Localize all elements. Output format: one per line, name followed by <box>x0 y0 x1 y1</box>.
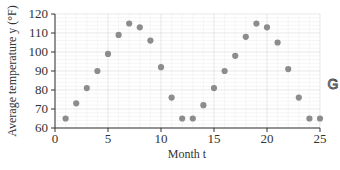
data-point <box>232 53 238 59</box>
data-point <box>243 34 249 40</box>
data-point <box>306 115 312 121</box>
data-point <box>158 64 164 70</box>
x-tick-label: 20 <box>261 131 274 146</box>
y-axis-title: Average temperature y (°F) <box>5 5 19 137</box>
scatter-chart: 60708090100110120 0510152025 Month t Ave… <box>0 0 340 170</box>
y-tick-label: 60 <box>35 120 48 135</box>
svg-text:G: G <box>328 76 339 92</box>
data-point <box>264 24 270 30</box>
graphing-calculator-icon: G <box>325 76 340 92</box>
data-point <box>179 115 185 121</box>
data-point <box>169 95 175 101</box>
x-axis-title: Month t <box>168 147 207 161</box>
data-point <box>222 68 228 74</box>
data-point <box>200 102 206 108</box>
y-tick-label: 120 <box>29 6 49 21</box>
y-tick-label: 70 <box>35 101 48 116</box>
data-point <box>63 115 69 121</box>
data-point <box>84 85 90 91</box>
data-point <box>296 95 302 101</box>
y-tick-label: 110 <box>29 25 48 40</box>
data-point <box>126 20 132 26</box>
data-point <box>211 85 217 91</box>
x-axis-ticks: 0510152025 <box>52 128 327 146</box>
data-point <box>116 32 122 38</box>
x-tick-label: 15 <box>208 131 221 146</box>
x-tick-label: 10 <box>155 131 168 146</box>
data-point <box>190 115 196 121</box>
x-tick-label: 0 <box>52 131 59 146</box>
data-point <box>317 115 323 121</box>
data-point <box>253 20 259 26</box>
data-point <box>275 39 281 45</box>
y-tick-label: 80 <box>35 82 48 97</box>
y-axis-ticks: 60708090100110120 <box>29 6 56 135</box>
data-point <box>73 100 79 106</box>
x-tick-label: 5 <box>105 131 112 146</box>
data-point <box>285 66 291 72</box>
data-point <box>94 68 100 74</box>
x-tick-label: 25 <box>314 131 327 146</box>
data-point <box>137 24 143 30</box>
data-point <box>105 51 111 57</box>
y-tick-label: 100 <box>29 44 49 59</box>
data-point <box>147 38 153 44</box>
y-tick-label: 90 <box>35 63 48 78</box>
